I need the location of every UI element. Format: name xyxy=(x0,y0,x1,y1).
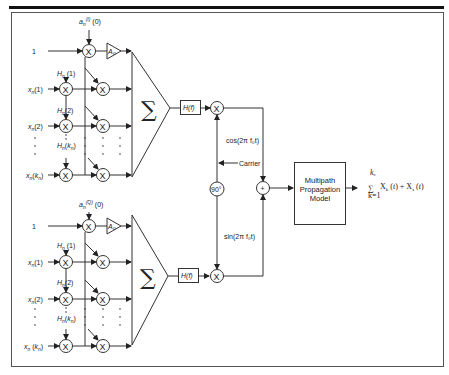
svg-text:X: X xyxy=(100,85,106,95)
inphase-input-kn: xn(kn) xyxy=(25,172,43,181)
figure-frame xyxy=(12,13,444,367)
sin-carrier-label: sin(2π f₀t) xyxy=(224,233,255,241)
quadrature-tap-1: Hn (1) xyxy=(57,242,75,251)
svg-text:kn: kn xyxy=(370,168,376,177)
inphase-unity-input: 1 xyxy=(32,48,36,55)
quadrature-tap-2: Hn(2) xyxy=(57,279,73,288)
svg-text:X: X xyxy=(214,272,220,282)
svg-text:X: X xyxy=(86,222,92,232)
svg-text:X: X xyxy=(63,122,69,132)
quadrature-unity-input: 1 xyxy=(32,223,36,230)
inphase-tap-2: Hn(2) xyxy=(57,107,73,116)
svg-text:X: X xyxy=(63,171,69,181)
svg-text:X: X xyxy=(63,295,69,305)
cos-carrier-label: cos(2π f₀t) xyxy=(226,137,259,145)
svg-text:H(f): H(f) xyxy=(181,272,193,280)
quadrature-symbol-label: an(Q) (0) xyxy=(79,199,103,210)
svg-text:∑: ∑ xyxy=(141,97,157,122)
block-diagram: an(I) (0) 1 X A₀ Hn (1) xn(1) X X Hn(2) … xyxy=(0,0,449,375)
svg-text:X: X xyxy=(63,258,69,268)
svg-text:X: X xyxy=(100,342,106,352)
inphase-branch: an(I) (0) 1 X A₀ Hn (1) xn(1) X X Hn(2) … xyxy=(25,16,263,182)
svg-text:X: X xyxy=(100,258,106,268)
inphase-input-1: xn(1) xyxy=(27,86,43,95)
svg-text:X: X xyxy=(86,47,92,57)
svg-text:Multipath: Multipath xyxy=(305,176,335,185)
svg-text:X: X xyxy=(214,104,220,114)
header-rule xyxy=(9,6,444,9)
svg-text:H(f): H(f) xyxy=(183,104,195,112)
quadrature-input-1: xn(1) xyxy=(27,259,43,268)
output-expression: kn ∑ k=1 Xk (t) + Xs (t) xyxy=(368,168,424,200)
inphase-tap-1: Hn (1) xyxy=(57,70,75,79)
quadrature-branch: an(Q) (0) 1 X A₀ Hn (1) xn(1) X X Hn(2) … xyxy=(23,195,263,353)
svg-text:X: X xyxy=(100,122,106,132)
svg-text:k=1: k=1 xyxy=(368,191,381,200)
svg-text:Propagation: Propagation xyxy=(300,185,340,194)
inphase-symbol-label: an(I) (0) xyxy=(79,16,101,27)
svg-text:A₀: A₀ xyxy=(107,223,116,230)
svg-text:+: + xyxy=(261,185,265,192)
svg-text:∑: ∑ xyxy=(140,265,156,290)
svg-text:Model: Model xyxy=(310,194,331,203)
svg-text:X: X xyxy=(100,295,106,305)
svg-text:X: X xyxy=(100,171,106,181)
inphase-input-2: xn(2) xyxy=(27,123,43,132)
quadrature-input-2: xn(2) xyxy=(27,296,43,305)
inphase-tap-kn: Hn(kn) xyxy=(57,142,76,151)
quadrature-input-kn: xn (kn) xyxy=(23,343,43,352)
carrier-label: Carrier xyxy=(239,160,261,167)
svg-text:90°: 90° xyxy=(211,186,222,193)
svg-text:A₀: A₀ xyxy=(107,48,116,55)
svg-text:Xk (t) + Xs (t): Xk (t) + Xs (t) xyxy=(380,182,424,192)
svg-text:X: X xyxy=(63,85,69,95)
svg-text:X: X xyxy=(63,342,69,352)
quadrature-tap-kn: Hn(kn) xyxy=(57,315,76,324)
